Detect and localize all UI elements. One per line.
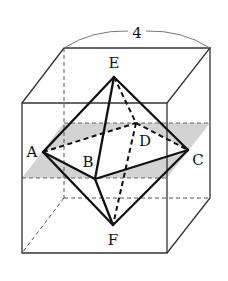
dimension-arc-right <box>146 31 210 48</box>
dimension-label: 4 <box>132 24 142 42</box>
edge-ED <box>114 77 136 123</box>
dimension-arc <box>64 31 128 48</box>
octahedron-in-cube-diagram: 4 E A B C D F <box>0 0 228 281</box>
edge-FB <box>95 179 113 225</box>
edge-FA <box>43 152 113 225</box>
vertex-label-E: E <box>109 54 120 72</box>
vertex-label-C: C <box>192 151 203 169</box>
vertex-label-A: A <box>26 143 38 161</box>
vertex-label-D: D <box>139 132 151 150</box>
vertex-label-F: F <box>108 231 118 249</box>
cube-hidden-edge-left-bottom <box>22 198 64 253</box>
vertex-label-B: B <box>82 153 93 171</box>
